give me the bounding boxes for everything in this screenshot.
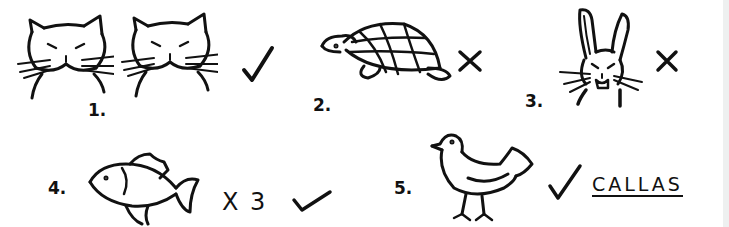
- cross-mark-3: [654, 48, 680, 74]
- item-number-4: 4.: [48, 178, 66, 198]
- cat-drawing-1: [14, 12, 114, 102]
- check-mark-5: [546, 162, 584, 202]
- pet-name: CALLAS: [592, 174, 683, 197]
- page-edge-shadow: [723, 0, 729, 227]
- item-number-5: 5.: [394, 178, 412, 198]
- cross-mark-2: [456, 48, 484, 74]
- rabbit-drawing: [556, 6, 646, 112]
- tortoise-drawing: [316, 16, 456, 86]
- item-number-2: 2.: [313, 95, 331, 115]
- fish-drawing: [86, 150, 206, 226]
- check-mark-1: [240, 44, 276, 84]
- item-number-1: 1.: [88, 100, 106, 120]
- multiplier-text: X 3: [222, 188, 267, 216]
- bird-drawing: [428, 130, 540, 224]
- cat-drawing-2: [118, 10, 218, 100]
- item-number-3: 3.: [525, 91, 543, 111]
- check-mark-4: [290, 188, 334, 214]
